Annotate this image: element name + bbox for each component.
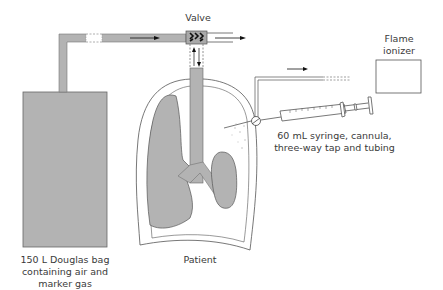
- tube-connector: [86, 33, 102, 43]
- flame-ionizer-box: [376, 60, 421, 93]
- sample-flow-arrow-icon: [287, 67, 308, 71]
- syringe-icon: [261, 97, 373, 121]
- valve-icon: [186, 31, 207, 44]
- douglas-bag: [23, 92, 107, 247]
- patient-label: Patient: [175, 254, 225, 266]
- valve-label: Valve: [180, 12, 216, 24]
- exhaust-arrow-icon: [215, 36, 246, 40]
- flame-ionizer-label: Flame ionizer: [374, 33, 424, 57]
- three-way-tap-icon: [252, 117, 261, 126]
- bidirectional-arrow-icon: [192, 47, 201, 67]
- syringe-label: 60 mL syringe, cannula, three-way tap an…: [262, 130, 407, 154]
- inlet-tube: [59, 34, 186, 92]
- douglas-bag-label: 150 L Douglas bag containing air and mar…: [5, 254, 125, 290]
